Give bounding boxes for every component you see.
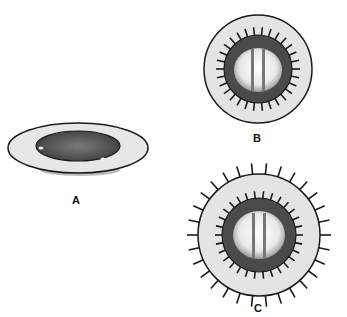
figure-a-valve (8, 123, 148, 176)
orifice (233, 211, 285, 259)
pivot-left (39, 147, 44, 150)
figure-b-valve (204, 15, 312, 123)
leaflet-left (251, 49, 254, 91)
label-c: C (254, 302, 262, 314)
figure-c-valve (187, 163, 331, 306)
label-b: B (253, 132, 261, 144)
leaflet-left (252, 213, 255, 258)
orifice (234, 48, 282, 92)
pivot-right (101, 158, 106, 161)
label-a: A (72, 194, 80, 206)
diagram-canvas (0, 0, 347, 317)
leaflet-right (263, 213, 266, 258)
leaflet-right (262, 49, 265, 91)
valve-housing (36, 131, 120, 161)
